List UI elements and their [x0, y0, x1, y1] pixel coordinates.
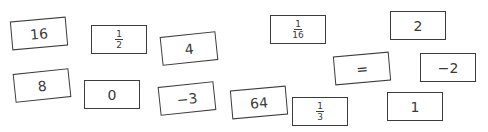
card-label: 1 — [411, 99, 420, 115]
fraction: 13 — [316, 101, 324, 122]
card-neg3[interactable]: −3 — [158, 81, 217, 116]
card-label: 0 — [108, 87, 117, 103]
card-0[interactable]: 0 — [84, 80, 140, 109]
card-half[interactable]: 12 — [91, 25, 147, 54]
fraction: 12 — [115, 29, 123, 50]
card-sixteenth[interactable]: 116 — [270, 15, 326, 44]
card-label: 64 — [249, 94, 268, 111]
fraction-numerator: 1 — [316, 101, 324, 112]
card-1[interactable]: 1 — [387, 92, 443, 121]
card-label: −2 — [438, 60, 459, 76]
card-equals[interactable]: = — [333, 52, 391, 86]
fraction: 116 — [292, 19, 303, 40]
card-label: 8 — [37, 77, 48, 94]
card-2[interactable]: 2 — [390, 11, 446, 40]
fraction-numerator: 1 — [294, 19, 302, 30]
card-64[interactable]: 64 — [230, 86, 288, 120]
card-label: = — [355, 60, 368, 77]
card-label: 4 — [184, 40, 195, 57]
fraction-numerator: 1 — [115, 29, 123, 40]
card-16[interactable]: 16 — [10, 17, 68, 51]
fraction-denominator: 3 — [317, 112, 323, 122]
card-8[interactable]: 8 — [13, 68, 72, 103]
card-label: 16 — [29, 25, 48, 42]
fraction-denominator: 2 — [116, 40, 122, 50]
card-label: 2 — [414, 18, 423, 34]
card-label: −3 — [176, 89, 198, 107]
card-4[interactable]: 4 — [160, 31, 219, 66]
card-third[interactable]: 13 — [292, 97, 348, 126]
card-neg2[interactable]: −2 — [420, 53, 476, 82]
fraction-denominator: 16 — [292, 30, 303, 40]
